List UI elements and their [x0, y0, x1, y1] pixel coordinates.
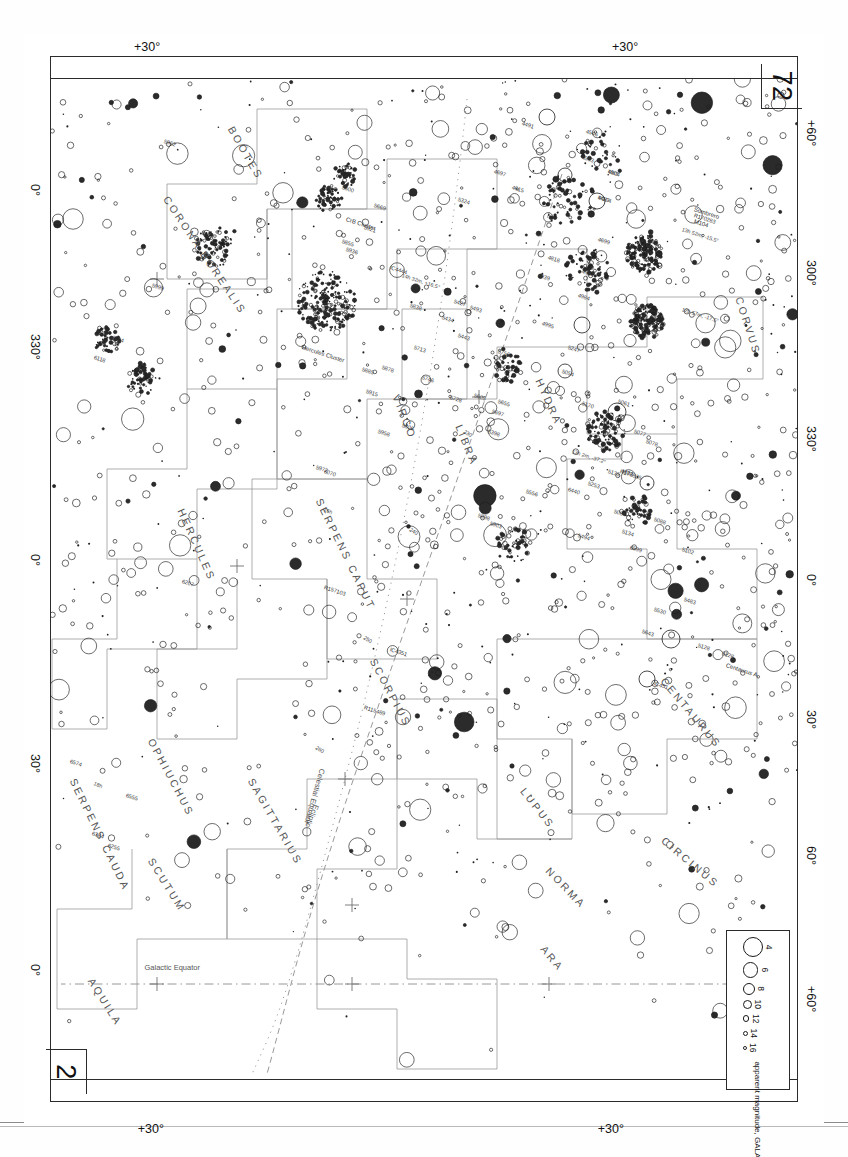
galaxy-marker: [373, 647, 375, 649]
galaxy-marker: [600, 422, 603, 425]
galaxy-marker: [131, 380, 134, 383]
tick-right-4: 0°: [28, 964, 42, 976]
galaxy-marker: [129, 388, 132, 391]
galaxy-marker: [204, 496, 208, 500]
galaxy-marker: [629, 118, 631, 120]
galaxy-marker: [695, 155, 699, 159]
galaxy-marker: [304, 604, 314, 614]
galaxy-marker: [366, 363, 368, 365]
galaxy-marker: [758, 426, 760, 428]
galaxy-marker: [102, 338, 104, 340]
galaxy-marker: [591, 466, 593, 468]
galaxy-marker: [242, 377, 244, 379]
galaxy-marker: [691, 91, 712, 112]
galaxy-marker: [178, 475, 180, 477]
galaxy-marker: [461, 795, 464, 798]
galaxy-marker: [420, 685, 427, 692]
galaxy-marker: [647, 452, 654, 459]
galaxy-marker: [520, 201, 525, 206]
galaxy-marker: [311, 294, 313, 296]
galaxy-marker: [353, 292, 356, 295]
galaxy-marker: [334, 188, 337, 191]
galaxy-marker: [649, 657, 652, 660]
galaxy-marker: [600, 271, 602, 273]
galaxy-marker: [415, 486, 421, 492]
galaxy-marker: [476, 284, 478, 286]
galaxy-marker: [313, 225, 315, 227]
galaxy-marker: [114, 323, 118, 327]
galaxy-marker: [197, 94, 201, 98]
galaxy-marker: [411, 283, 420, 292]
galaxy-marker: [713, 706, 715, 708]
galaxy-marker: [398, 229, 400, 231]
galaxy-marker: [608, 438, 610, 440]
galaxy-marker: [637, 951, 643, 957]
legend-magnitude-14: 14: [743, 1028, 759, 1037]
galaxy-marker: [281, 345, 286, 350]
galaxy-marker: [90, 716, 99, 725]
galaxy-marker: [716, 205, 723, 212]
galaxy-marker: [452, 437, 456, 441]
galaxy-marker: [257, 293, 259, 295]
galaxy-marker: [426, 750, 429, 753]
galaxy-marker: [327, 660, 329, 662]
galaxy-marker: [335, 295, 337, 297]
galaxy-marker: [367, 739, 373, 745]
galaxy-marker: [517, 555, 519, 557]
galaxy-marker: [157, 357, 163, 363]
galaxy-marker: [188, 282, 190, 284]
galaxy-marker: [542, 201, 545, 204]
galaxy-marker: [590, 476, 594, 480]
galaxy-marker: [498, 514, 502, 518]
galaxy-marker: [375, 855, 384, 864]
galaxy-marker: [103, 219, 112, 228]
legend-magnitude-symbol: [743, 962, 759, 978]
galaxy-marker: [155, 377, 157, 379]
galaxy-marker: [378, 583, 385, 590]
constellation-boundary: [292, 159, 497, 309]
galaxy-marker: [317, 323, 319, 325]
galaxy-marker: [750, 187, 752, 189]
galaxy-marker: [449, 152, 455, 158]
galaxy-marker: [188, 81, 192, 85]
galaxy-marker: [366, 238, 373, 245]
galaxy-marker: [525, 543, 528, 546]
galaxy-marker: [51, 679, 69, 700]
galaxy-marker: [569, 566, 575, 572]
galaxy-marker: [566, 134, 569, 137]
galaxy-marker: [387, 464, 396, 473]
galaxy-marker: [150, 389, 152, 391]
galaxy-marker: [718, 185, 722, 189]
galaxy-marker: [618, 743, 630, 755]
galaxy-marker: [500, 305, 503, 308]
galaxy-marker: [598, 512, 602, 516]
galaxy-marker: [346, 291, 348, 293]
galaxy-marker: [664, 672, 666, 674]
galaxy-marker: [649, 688, 651, 690]
galaxy-marker: [586, 255, 589, 258]
galaxy-marker: [618, 414, 635, 431]
galaxy-marker: [779, 210, 782, 213]
galaxy-marker: [208, 625, 211, 628]
galaxy-marker: [521, 336, 523, 338]
galaxy-marker: [761, 904, 765, 908]
galaxy-marker: [788, 673, 790, 675]
galaxy-marker: [230, 237, 232, 239]
galaxy-marker: [304, 733, 306, 735]
galaxy-marker: [689, 363, 693, 367]
galaxy-marker: [202, 767, 207, 772]
galaxy-marker: [575, 396, 580, 401]
galaxy-marker: [618, 294, 626, 302]
galaxy-marker: [565, 423, 569, 427]
galaxy-marker: [498, 721, 504, 727]
galaxy-marker: [202, 517, 204, 519]
galaxy-marker: [642, 219, 644, 221]
galaxy-marker: [585, 719, 591, 725]
galaxy-marker: [590, 303, 592, 305]
galaxy-marker: [394, 310, 399, 315]
galaxy-marker: [185, 613, 187, 615]
galaxy-marker: [336, 283, 339, 286]
galaxy-marker: [603, 87, 619, 103]
galaxy-marker: [584, 264, 587, 267]
galaxy-marker: [648, 349, 651, 352]
